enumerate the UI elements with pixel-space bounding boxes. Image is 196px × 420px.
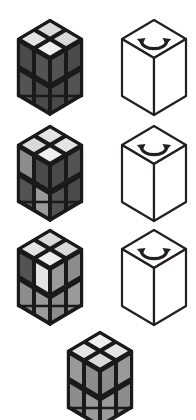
rotation-cube-step-2[interactable]	[120, 124, 188, 204]
rotation-cube-step-3[interactable]	[120, 228, 188, 308]
rubiks-cube-step-4-slot	[66, 330, 134, 410]
rubiks-cube-step-4[interactable]	[66, 330, 134, 410]
rubiks-cube-step-3[interactable]	[16, 228, 84, 308]
rubiks-cube-step-3-slot	[16, 228, 84, 308]
rotation-cube-step-2-slot	[120, 124, 188, 204]
rubiks-cube-step-2-slot	[16, 124, 84, 204]
rotation-cube-step-1-slot	[120, 18, 188, 98]
rubiks-cube-step-2[interactable]	[16, 124, 84, 204]
rotation-cube-step-3-slot	[120, 228, 188, 308]
rubiks-cube-step-1[interactable]	[16, 18, 84, 98]
rotation-cube-step-1[interactable]	[120, 18, 188, 98]
cube-sequence-canvas	[0, 0, 196, 420]
rubiks-cube-step-1-slot	[16, 18, 84, 98]
